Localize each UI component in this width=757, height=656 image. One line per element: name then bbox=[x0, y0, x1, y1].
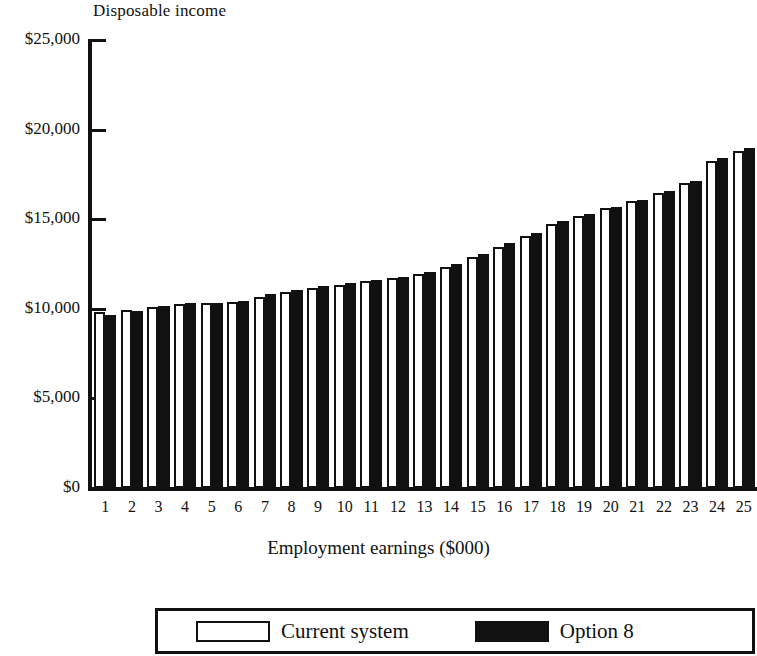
x-axis-tick-label: 6 bbox=[225, 498, 252, 516]
plot-area: $0$5,000$10,000$15,000$20,000$25,000 bbox=[88, 40, 757, 488]
bar-option-8 bbox=[238, 301, 249, 488]
x-axis-tick-label: 1 bbox=[92, 498, 119, 516]
y-axis-tick-label: $0 bbox=[0, 477, 80, 497]
bar-option-8 bbox=[478, 254, 489, 488]
bar-option-8 bbox=[451, 264, 462, 488]
x-axis-tick-label: 12 bbox=[385, 498, 412, 516]
bar-series-layer bbox=[92, 40, 757, 488]
x-axis-tick-label: 19 bbox=[571, 498, 598, 516]
bar-group bbox=[172, 40, 199, 488]
bar-group bbox=[677, 40, 704, 488]
bar-current-system bbox=[201, 303, 212, 488]
x-axis-tick-label: 7 bbox=[252, 498, 279, 516]
bar-option-8 bbox=[345, 283, 356, 488]
bar-group bbox=[651, 40, 678, 488]
bar-option-8 bbox=[371, 280, 382, 488]
bar-current-system bbox=[493, 247, 504, 488]
x-axis-tick-label: 5 bbox=[198, 498, 225, 516]
legend-label-option-8: Option 8 bbox=[560, 619, 634, 644]
x-axis-tick-label: 3 bbox=[145, 498, 172, 516]
bar-group bbox=[571, 40, 598, 488]
bar-option-8 bbox=[132, 311, 143, 488]
bar-current-system bbox=[334, 285, 345, 488]
bar-current-system bbox=[600, 208, 611, 488]
x-axis-tick-label: 18 bbox=[544, 498, 571, 516]
x-axis-tick-label: 11 bbox=[358, 498, 385, 516]
bar-current-system bbox=[121, 310, 132, 488]
bar-group bbox=[92, 40, 119, 488]
x-axis-tick-label: 8 bbox=[278, 498, 305, 516]
bar-group bbox=[119, 40, 146, 488]
x-axis-tick-label: 20 bbox=[597, 498, 624, 516]
bar-group bbox=[518, 40, 545, 488]
x-axis-tick-label: 2 bbox=[119, 498, 146, 516]
bar-chart: Disposable income $0$5,000$10,000$15,000… bbox=[0, 0, 757, 656]
bar-option-8 bbox=[291, 290, 302, 488]
bar-option-8 bbox=[744, 148, 755, 488]
y-axis-tick-label: $5,000 bbox=[0, 387, 80, 407]
bar-current-system bbox=[706, 161, 717, 488]
bar-group bbox=[358, 40, 385, 488]
bar-group bbox=[252, 40, 279, 488]
legend-label-current-system: Current system bbox=[281, 619, 409, 644]
bar-current-system bbox=[254, 297, 265, 488]
bar-option-8 bbox=[398, 277, 409, 488]
bar-option-8 bbox=[265, 294, 276, 488]
x-axis-tick-label: 16 bbox=[491, 498, 518, 516]
bar-option-8 bbox=[531, 233, 542, 488]
chart-legend: Current system Option 8 bbox=[155, 608, 755, 654]
bar-current-system bbox=[733, 151, 744, 488]
x-axis-ticks: 1234567891011121314151617181920212223242… bbox=[92, 498, 757, 522]
y-axis-tick-label: $25,000 bbox=[0, 29, 80, 49]
bar-current-system bbox=[307, 288, 318, 488]
bar-group bbox=[385, 40, 412, 488]
x-axis-tick-label: 25 bbox=[730, 498, 757, 516]
bar-current-system bbox=[413, 274, 424, 488]
y-axis-tick-label: $10,000 bbox=[0, 298, 80, 318]
x-axis-tick-label: 23 bbox=[677, 498, 704, 516]
bar-option-8 bbox=[212, 303, 223, 488]
bar-option-8 bbox=[717, 158, 728, 488]
bar-group bbox=[331, 40, 358, 488]
bar-current-system bbox=[280, 292, 291, 488]
x-axis-tick-label: 13 bbox=[411, 498, 438, 516]
bar-current-system bbox=[94, 312, 105, 488]
bar-current-system bbox=[520, 236, 531, 488]
bar-current-system bbox=[360, 281, 371, 488]
bar-option-8 bbox=[557, 221, 568, 488]
bar-current-system bbox=[147, 307, 158, 488]
x-axis-tick-label: 10 bbox=[331, 498, 358, 516]
y-axis-tick-label: $15,000 bbox=[0, 208, 80, 228]
bar-current-system bbox=[387, 278, 398, 488]
bar-option-8 bbox=[690, 181, 701, 488]
y-axis-title: Disposable income bbox=[93, 1, 226, 21]
bar-group bbox=[411, 40, 438, 488]
bar-option-8 bbox=[664, 191, 675, 488]
bar-option-8 bbox=[424, 272, 435, 488]
bar-current-system bbox=[653, 193, 664, 488]
bar-group bbox=[597, 40, 624, 488]
x-axis-tick-label: 15 bbox=[464, 498, 491, 516]
legend-item-current-system: Current system bbox=[196, 619, 409, 644]
bar-current-system bbox=[467, 257, 478, 488]
bar-option-8 bbox=[584, 214, 595, 488]
bar-group bbox=[278, 40, 305, 488]
x-axis-tick-label: 21 bbox=[624, 498, 651, 516]
legend-swatch-current-system bbox=[196, 621, 270, 642]
bar-current-system bbox=[573, 216, 584, 488]
bar-group bbox=[704, 40, 731, 488]
bar-current-system bbox=[626, 201, 637, 488]
x-axis-title: Employment earnings ($000) bbox=[0, 537, 757, 559]
bar-option-8 bbox=[318, 286, 329, 488]
bar-current-system bbox=[174, 304, 185, 488]
x-axis-tick-label: 22 bbox=[651, 498, 678, 516]
bar-option-8 bbox=[504, 243, 515, 489]
x-axis-tick-label: 24 bbox=[704, 498, 731, 516]
bar-option-8 bbox=[637, 200, 648, 489]
legend-item-option-8: Option 8 bbox=[475, 619, 634, 644]
bar-group bbox=[198, 40, 225, 488]
x-axis-tick-label: 17 bbox=[518, 498, 545, 516]
x-axis-tick-label: 14 bbox=[438, 498, 465, 516]
bar-current-system bbox=[546, 224, 557, 488]
bar-group bbox=[491, 40, 518, 488]
